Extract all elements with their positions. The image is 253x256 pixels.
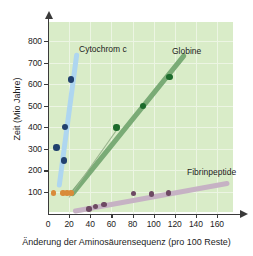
x-axis-tick <box>90 214 91 218</box>
x-axis-tick <box>217 214 218 218</box>
data-point <box>53 144 60 151</box>
data-point <box>166 74 173 81</box>
grid-line-horizontal <box>49 41 233 42</box>
data-point <box>149 191 155 197</box>
y-axis-tick <box>44 41 49 42</box>
data-point <box>86 206 92 212</box>
y-axis-arrow-icon <box>45 11 53 19</box>
grid-line-horizontal <box>49 149 233 150</box>
grid-line-horizontal <box>49 127 233 128</box>
data-point <box>166 190 172 196</box>
x-axis-tick <box>133 214 134 218</box>
series-label-fibrinpeptide: Fibrinpeptide <box>187 167 236 177</box>
data-point <box>51 190 57 196</box>
data-point <box>68 190 74 196</box>
x-axis-tick-label: 160 <box>205 219 229 229</box>
y-axis-tick <box>44 63 49 64</box>
x-axis-tick <box>111 214 112 218</box>
chart-root: 1002003004005006007008000204060801001201… <box>0 0 253 256</box>
x-axis-line <box>48 214 245 215</box>
y-axis-tick <box>44 106 49 107</box>
grid-line-vertical <box>154 22 155 214</box>
x-axis-tick <box>175 214 176 218</box>
x-axis-tick <box>196 214 197 218</box>
x-axis-title: Änderung der Aminosäurensequenz (pro 100… <box>0 237 253 247</box>
y-axis-tick <box>44 192 49 193</box>
data-point <box>61 157 68 164</box>
y-axis-tick <box>44 170 49 171</box>
series-label-globine: Globine <box>172 46 201 56</box>
x-axis-tick <box>69 214 70 218</box>
data-point <box>113 124 120 131</box>
x-axis-arrow-icon <box>240 210 248 218</box>
y-axis-tick-label: 100 <box>16 187 42 197</box>
y-axis-title: Zeit (Mio Jahre) <box>12 39 22 179</box>
y-axis-tick <box>44 127 49 128</box>
y-axis-tick <box>44 84 49 85</box>
data-point <box>101 202 107 208</box>
y-axis-tick <box>44 149 49 150</box>
y-axis-line <box>48 16 49 215</box>
series-label-cytochrom-c: Cytochrom c <box>79 44 127 54</box>
data-point <box>68 76 75 83</box>
grid-line-horizontal <box>49 84 233 85</box>
x-axis-tick <box>154 214 155 218</box>
